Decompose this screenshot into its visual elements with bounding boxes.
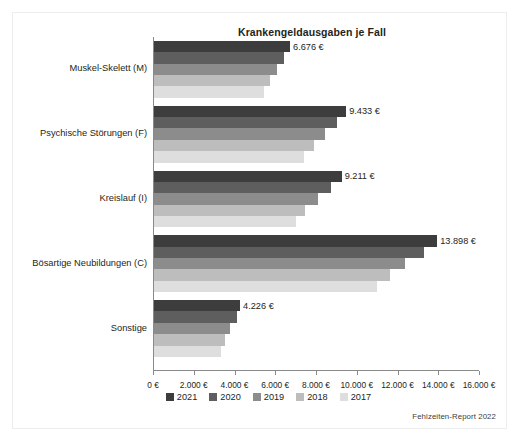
bar-row [154,193,479,204]
legend-swatch-icon [166,393,174,401]
category-label: Psychische Störungen (F) [40,128,154,138]
bar-value-label: 9.211 € [342,171,375,181]
legend-swatch-icon [253,393,261,401]
bar-row [154,216,479,227]
bar[interactable] [154,52,284,63]
bar[interactable] [154,323,230,334]
bar[interactable] [154,281,377,292]
bar-value-label: 6.676 € [290,42,324,52]
bar[interactable] [154,117,337,128]
category-label: Kreislauf (I) [99,193,154,203]
bar[interactable] [154,128,325,139]
bar-value-label: 9.433 € [346,106,380,116]
legend-item[interactable]: 2018 [296,392,327,402]
bar-row: 9.433 € [154,106,479,117]
x-axis-tick-label: 16.000 € [463,380,496,390]
bar-group: Psychische Störungen (F)9.433 € [154,106,479,163]
bar[interactable] [154,269,390,280]
bar-row: 9.211 € [154,171,479,182]
bar-row [154,258,479,269]
bar[interactable] [154,300,240,311]
x-axis-tick [438,371,439,375]
bar-row [154,151,479,162]
bar-row: 4.226 € [154,300,479,311]
source-note: Fehlzeiten-Report 2022 [412,412,496,421]
legend-label: 2020 [220,392,240,402]
bar-row [154,86,479,97]
bar[interactable] [154,171,342,182]
bar-row [154,247,479,258]
legend-item[interactable]: 2021 [166,392,197,402]
x-axis-tick [153,371,154,375]
legend-label: 2021 [177,392,197,402]
x-axis-tick [316,371,317,375]
x-axis-tick-label: 12.000 € [381,380,414,390]
bar-row [154,323,479,334]
legend-item[interactable]: 2020 [209,392,240,402]
legend-item[interactable]: 2017 [340,392,371,402]
bar[interactable] [154,151,304,162]
bar-row [154,140,479,151]
x-axis-tick [235,371,236,375]
legend-swatch-icon [209,393,217,401]
bar-row [154,281,479,292]
bar-row [154,334,479,345]
x-axis-tick [357,371,358,375]
x-axis-tick [398,371,399,375]
bar[interactable] [154,258,405,269]
legend-label: 2017 [351,392,371,402]
bar[interactable] [154,334,225,345]
bar-group: Bösartige Neubildungen (C)13.898 € [154,235,479,292]
legend-label: 2018 [307,392,327,402]
bar[interactable] [154,216,296,227]
bar[interactable] [154,41,290,52]
bar-row [154,269,479,280]
bar[interactable] [154,247,424,258]
bar-row [154,128,479,139]
bar[interactable] [154,86,264,97]
bar-row: 13.898 € [154,235,479,246]
bar[interactable] [154,346,221,357]
bar-value-label: 13.898 € [437,236,476,246]
bar-row [154,311,479,322]
legend-swatch-icon [340,393,348,401]
bar[interactable] [154,193,318,204]
x-axis-tick-label: 6.000 € [261,380,289,390]
bar[interactable] [154,235,437,246]
x-axis-tick [479,371,480,375]
x-axis-tick-label: 14.000 € [422,380,455,390]
x-axis-tick-label: 0 € [147,380,159,390]
bar-row [154,117,479,128]
bar[interactable] [154,140,314,151]
bar-row [154,75,479,86]
category-label: Sonstige [111,323,154,333]
legend-item[interactable]: 2019 [253,392,284,402]
bar-row [154,205,479,216]
x-axis-tick-label: 2.000 € [180,380,208,390]
bar-row [154,346,479,357]
bar-row: 6.676 € [154,41,479,52]
chart-figure: Krankengeldausgaben je Fall 0 €2.000 €4.… [12,12,507,429]
x-axis-tick-label: 8.000 € [302,380,330,390]
chart-legend: 20212020201920182017 [13,392,506,402]
legend-label: 2019 [264,392,284,402]
bar-group: Sonstige4.226 € [154,300,479,357]
bar-row [154,182,479,193]
bar-group: Kreislauf (I)9.211 € [154,171,479,228]
category-label: Muskel-Skelett (M) [70,63,155,73]
bar[interactable] [154,182,331,193]
bar-group: Muskel-Skelett (M)6.676 € [154,41,479,98]
bar-row [154,64,479,75]
bar[interactable] [154,311,237,322]
bar[interactable] [154,205,305,216]
bar[interactable] [154,64,277,75]
bar-value-label: 4.226 € [240,301,274,311]
x-axis-tick [194,371,195,375]
plot-area: 0 €2.000 €4.000 €6.000 €8.000 €10.000 €1… [153,37,479,371]
bar[interactable] [154,75,270,86]
x-axis-tick-label: 4.000 € [221,380,249,390]
bar-row [154,52,479,63]
x-axis-tick-label: 10.000 € [340,380,373,390]
x-axis-tick [275,371,276,375]
bar[interactable] [154,106,346,117]
